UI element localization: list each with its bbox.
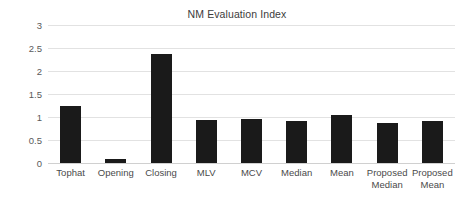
y-axis-tick-label: 0.5: [29, 135, 42, 146]
x-axis-tick-label: Opening: [93, 167, 138, 197]
bar-slot: [93, 25, 138, 163]
bar: [331, 115, 352, 163]
bar: [286, 121, 307, 163]
bar-slot: [365, 25, 410, 163]
y-axis-tick-label: 1: [37, 112, 42, 123]
y-axis-tick-label: 0: [37, 158, 42, 169]
bar-slot: [319, 25, 364, 163]
bar-slot: [48, 25, 93, 163]
x-axis-tick-label: Proposed Mean: [410, 167, 455, 197]
chart-title: NM Evaluation Index: [0, 8, 474, 20]
x-axis-tick-label: Tophat: [48, 167, 93, 197]
bar: [196, 120, 217, 163]
x-axis-tick-label: Proposed Median: [365, 167, 410, 197]
bar: [422, 121, 443, 163]
x-axis-tick-label: MCV: [229, 167, 274, 197]
bar-slot: [229, 25, 274, 163]
bar-slot: [410, 25, 455, 163]
bar-series: [48, 25, 455, 163]
x-axis: TophatOpeningClosingMLVMCVMedianMeanProp…: [48, 167, 455, 197]
y-axis-tick-label: 3: [37, 20, 42, 31]
bar: [105, 159, 126, 163]
y-axis: 00.511.522.53: [0, 25, 42, 163]
bar-slot: [184, 25, 229, 163]
x-axis-tick-label: Closing: [138, 167, 183, 197]
gridline: [48, 163, 455, 164]
bar: [60, 106, 81, 163]
bar-slot: [274, 25, 319, 163]
y-axis-tick-label: 2: [37, 66, 42, 77]
bar: [377, 123, 398, 163]
bar: [241, 119, 262, 163]
y-axis-tick-label: 1.5: [29, 89, 42, 100]
x-axis-tick-label: Mean: [319, 167, 364, 197]
plot-area: [48, 25, 455, 163]
bar-chart: NM Evaluation Index 00.511.522.53 Tophat…: [0, 0, 474, 199]
x-axis-tick-label: Median: [274, 167, 319, 197]
bar-slot: [138, 25, 183, 163]
y-axis-tick-label: 2.5: [29, 43, 42, 54]
bar: [151, 54, 172, 163]
x-axis-tick-label: MLV: [184, 167, 229, 197]
